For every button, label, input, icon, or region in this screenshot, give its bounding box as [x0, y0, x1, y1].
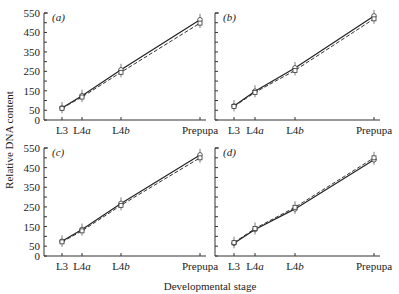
x-tick-label: L4a: [246, 260, 264, 272]
panel-label: (b): [223, 11, 236, 24]
data-point-square: [293, 205, 297, 209]
x-tick-label: L4a: [246, 124, 264, 136]
y-tick-label: 150: [24, 85, 41, 97]
panel-label: (d): [223, 146, 236, 159]
y-tick-label: 350: [24, 46, 41, 58]
x-tick-label: L4a: [73, 260, 91, 272]
x-tick-label: L4b: [286, 124, 304, 136]
x-tick-label: Prepupa: [182, 124, 218, 136]
x-tick-label: L3: [56, 260, 69, 272]
data-point-square: [232, 241, 236, 245]
panel-d: L3L4aL4bPrepupa(d): [215, 146, 392, 272]
x-tick-label: Prepupa: [356, 260, 392, 272]
y-tick-label: 0: [35, 114, 41, 126]
x-tick-label: L3: [228, 124, 241, 136]
x-tick-label: L4b: [112, 260, 130, 272]
y-axis-title: Relative DNA content: [3, 91, 15, 189]
x-tick-label: L4a: [73, 124, 91, 136]
figure: Relative DNA content Developmental stage…: [0, 0, 399, 294]
x-tick-label: L4b: [286, 260, 304, 272]
y-tick-label: 450: [24, 162, 41, 174]
data-point-square: [60, 106, 64, 110]
data-point-square: [119, 70, 123, 74]
panel-c: 550450350250150500L3L4aL4bPrepupa(c): [24, 142, 219, 272]
data-point-square: [253, 90, 257, 94]
x-tick-label: L3: [56, 124, 69, 136]
x-tick-label: Prepupa: [182, 260, 218, 272]
data-point-square: [60, 240, 64, 244]
data-point-square: [232, 104, 236, 108]
data-point-square: [372, 17, 376, 21]
y-tick-label: 250: [24, 201, 41, 213]
panel-b: L3L4aL4bPrepupa(b): [215, 10, 392, 136]
panel-label: (c): [52, 146, 65, 159]
x-tick-label: L4b: [112, 124, 130, 136]
y-tick-label: 150: [24, 221, 41, 233]
data-point-square: [80, 229, 84, 233]
x-tick-label: Prepupa: [356, 124, 392, 136]
y-tick-label: 350: [24, 181, 41, 193]
y-tick-label: 0: [35, 250, 41, 262]
data-point-square: [293, 68, 297, 72]
panel-label: (a): [52, 11, 65, 24]
data-point-square: [198, 21, 202, 25]
y-tick-label: 250: [24, 65, 41, 77]
axis-lines: [44, 148, 206, 256]
data-point-square: [198, 156, 202, 160]
x-axis-title: Developmental stage: [164, 280, 257, 292]
y-tick-label: 550: [24, 142, 41, 154]
data-point-square: [372, 156, 376, 160]
data-point-square: [119, 203, 123, 207]
panel-a: 550450350250150500L3L4aL4bPrepupa(a): [24, 7, 219, 136]
x-tick-label: L3: [228, 260, 241, 272]
data-point-square: [253, 227, 257, 231]
data-point-square: [80, 95, 84, 99]
y-tick-label: 550: [24, 7, 41, 19]
y-tick-label: 450: [24, 26, 41, 38]
